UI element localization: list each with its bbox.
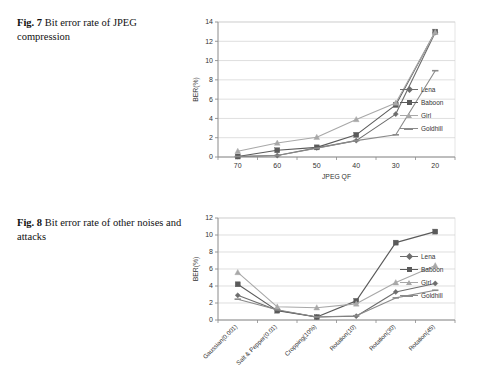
marker-square <box>235 282 240 287</box>
legend-item-lena[interactable]: Lena <box>400 83 443 96</box>
x-axis-title: JPEG QF <box>322 173 351 181</box>
y-tick-label: 12 <box>205 214 213 221</box>
x-tick-label: 20 <box>431 162 439 169</box>
marker-square <box>433 229 438 234</box>
legend-item-girl[interactable]: Girl <box>400 276 443 289</box>
legend-item-lena[interactable]: Lena <box>400 250 443 263</box>
x-tick-label: 50 <box>313 162 321 169</box>
data-point-square <box>433 229 438 234</box>
marker-dash <box>353 140 359 142</box>
y-tick-label: 0 <box>209 153 213 160</box>
figure-7-caption-label: Fig. 7 <box>17 17 42 28</box>
legend-item-girl[interactable]: Girl <box>400 109 443 122</box>
x-tick-label: 60 <box>273 162 281 169</box>
marker-square <box>354 132 359 137</box>
y-tick-label: 6 <box>209 265 213 272</box>
y-tick-label: 8 <box>209 76 213 83</box>
legend-label: Lena <box>421 85 435 94</box>
legend-label: Goldhill <box>421 124 443 133</box>
data-point-dash <box>393 297 399 299</box>
marker-dash <box>235 298 241 300</box>
data-point-dash <box>314 148 320 150</box>
data-point-dash <box>353 315 359 317</box>
legend-key-diamond-icon <box>400 252 418 262</box>
y-tick-label: 0 <box>209 316 213 323</box>
legend-item-goldhill[interactable]: Goldhill <box>400 289 443 302</box>
y-tick-label: 14 <box>205 18 213 25</box>
x-tick-label: Gaussian(0.001) <box>201 323 238 360</box>
data-point-square <box>235 282 240 287</box>
y-axis-title: BER(%) <box>192 77 200 102</box>
legend-key-dash-icon <box>400 124 418 134</box>
marker-square <box>393 240 398 245</box>
marker-dash <box>432 70 438 72</box>
marker-dash <box>393 297 399 299</box>
legend-key-triangle-icon <box>400 111 418 121</box>
marker-square <box>275 148 280 153</box>
marker-dash <box>393 134 399 136</box>
y-tick-label: 8 <box>209 248 213 255</box>
figure-8-caption-text: Bit error rate of other noises and attac… <box>17 217 181 242</box>
legend-key-triangle-icon <box>400 278 418 288</box>
legend-item-baboon[interactable]: Baboon <box>400 96 443 109</box>
y-tick-label: 2 <box>209 134 213 141</box>
legend-label: Baboon <box>421 265 443 274</box>
y-tick-label: 10 <box>205 57 213 64</box>
marker-dash <box>274 309 280 311</box>
data-point-dash <box>314 316 320 318</box>
y-tick-label: 12 <box>205 38 213 45</box>
legend-label: Lena <box>421 252 435 261</box>
figure-8-legend: LenaBaboonGirlGoldhill <box>400 250 443 302</box>
data-point-square <box>393 240 398 245</box>
y-tick-label: 4 <box>209 282 213 289</box>
figure-8-caption-label: Fig. 8 <box>17 217 42 228</box>
figure-7-legend: LenaBaboonGirlGoldhill <box>400 83 443 135</box>
y-tick-label: 2 <box>209 299 213 306</box>
data-point-dash <box>432 70 438 72</box>
x-tick-label: 70 <box>234 162 242 169</box>
y-tick-label: 4 <box>209 115 213 122</box>
legend-key-dash-icon <box>400 291 418 301</box>
legend-label: Girl <box>421 278 431 287</box>
legend-label: Goldhill <box>421 291 443 300</box>
data-point-dash <box>274 309 280 311</box>
figure-8: Fig. 8 Bit error rate of other noises an… <box>0 200 477 392</box>
marker-dash <box>235 156 241 158</box>
figure-8-caption: Fig. 8 Bit error rate of other noises an… <box>17 216 182 244</box>
x-tick-label: Rotation(30) <box>367 323 396 352</box>
legend-key-square-icon <box>400 98 418 108</box>
legend-label: Girl <box>421 111 431 120</box>
figure-7-caption: Fig. 7 Bit error rate of JPEG compressio… <box>17 16 182 44</box>
legend-key-square-icon <box>400 265 418 275</box>
x-tick-label: 40 <box>352 162 360 169</box>
data-point-dash <box>274 155 280 157</box>
y-axis-title: BER(%) <box>192 257 200 282</box>
legend-label: Baboon <box>421 98 443 107</box>
marker-dash <box>353 315 359 317</box>
x-tick-label: Rotation(10) <box>328 323 357 352</box>
x-tick-label: Salt & Pepper(0.01) <box>235 323 278 366</box>
y-tick-label: 10 <box>205 231 213 238</box>
data-point-square <box>354 132 359 137</box>
figure-7: Fig. 7 Bit error rate of JPEG compressio… <box>0 0 477 200</box>
legend-key-diamond-icon <box>400 85 418 95</box>
x-tick-label: 30 <box>392 162 400 169</box>
data-point-dash <box>393 134 399 136</box>
legend-item-goldhill[interactable]: Goldhill <box>400 122 443 135</box>
x-tick-label: Rotation(45) <box>407 323 436 352</box>
data-point-square <box>275 148 280 153</box>
marker-dash <box>314 316 320 318</box>
marker-dash <box>274 155 280 157</box>
data-point-dash <box>353 140 359 142</box>
marker-dash <box>314 148 320 150</box>
legend-item-baboon[interactable]: Baboon <box>400 263 443 276</box>
data-point-dash <box>235 156 241 158</box>
x-tick-label: Cropping(10%) <box>283 323 317 357</box>
y-tick-label: 6 <box>209 96 213 103</box>
data-point-dash <box>235 298 241 300</box>
